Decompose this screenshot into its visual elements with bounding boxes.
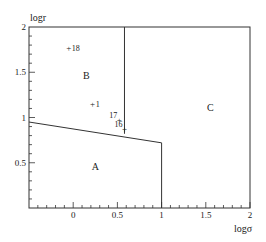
region-label: B	[83, 70, 90, 81]
data-points: +18+1+17+16	[66, 43, 127, 134]
point-label: 17	[109, 111, 117, 120]
chart: 00.511.52 0.511.52 ABC +18+1+17+16 logr …	[0, 0, 266, 242]
y-tick-label: 0.5	[15, 158, 27, 168]
y-tick-label: 1.5	[15, 67, 27, 77]
x-axis-label: logσ	[234, 223, 253, 234]
y-axis-ticks: 0.511.52	[15, 22, 35, 199]
y-axis-label: logr	[30, 12, 47, 23]
y-tick-label: 2	[22, 22, 27, 32]
x-tick-label: 1.5	[200, 210, 212, 220]
plot-frame	[29, 27, 250, 208]
region-label: A	[92, 161, 100, 172]
x-axis-ticks: 00.511.52	[38, 202, 252, 220]
point-label: 18	[72, 44, 80, 53]
x-tick-label: 0.5	[112, 210, 124, 220]
region-label: C	[207, 102, 214, 113]
x-tick-label: 2	[248, 210, 253, 220]
region-labels: ABC	[83, 70, 214, 172]
x-tick-label: 1	[159, 210, 164, 220]
point-label: 1	[96, 100, 100, 109]
point-marker: +	[90, 99, 95, 109]
boundary-line	[29, 122, 162, 143]
point-marker: +	[122, 124, 127, 134]
y-tick-label: 1	[22, 113, 27, 123]
point-marker: +	[66, 43, 71, 53]
point-label: 16	[114, 120, 122, 129]
x-tick-label: 0	[71, 210, 76, 220]
region-boundaries	[29, 27, 162, 208]
